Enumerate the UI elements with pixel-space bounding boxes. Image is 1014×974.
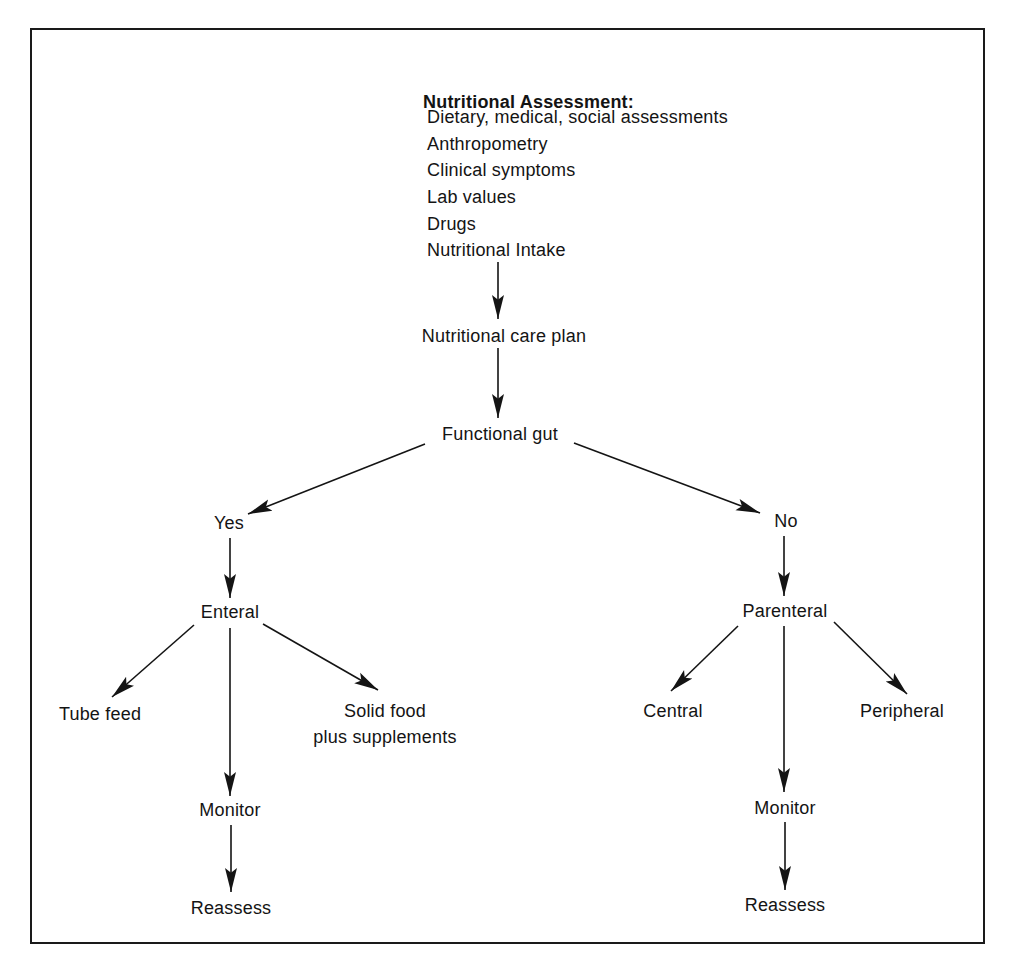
arrow-gut-to-yes [248,444,425,514]
node-enteral: Enteral [201,602,259,622]
assessment-item: Drugs [427,211,728,238]
node-reassess-parenteral: Reassess [745,895,826,915]
node-solid-food-supplements: plus supplements [313,727,456,747]
node-solid-food: Solid food [344,701,426,721]
node-peripheral: Peripheral [860,701,944,721]
node-tube-feed: Tube feed [59,704,141,724]
arrow-enteral-to-solidfood [263,624,378,690]
assessment-item: Anthropometry [427,131,728,158]
node-central: Central [643,701,702,721]
node-no: No [774,511,797,531]
node-monitor-parenteral: Monitor [754,798,815,818]
assessment-item: Dietary, medical, social assessments [427,104,728,131]
node-parenteral: Parenteral [742,601,827,621]
node-functional-gut: Functional gut [442,424,558,444]
arrow-gut-to-no [574,443,760,513]
assessment-item: Lab values [427,184,728,211]
node-care-plan: Nutritional care plan [422,326,586,346]
node-yes: Yes [214,513,244,533]
assessment-item: Clinical symptoms [427,157,728,184]
node-reassess-enteral: Reassess [191,898,272,918]
assessment-item: Nutritional Intake [427,237,728,264]
arrow-enteral-to-tubefeed [112,625,194,697]
arrow-parenteral-to-central [671,626,738,691]
node-monitor-enteral: Monitor [199,800,260,820]
arrow-parenteral-to-peripheral [834,622,907,694]
assessment-list: Dietary, medical, social assessments Ant… [427,104,728,264]
